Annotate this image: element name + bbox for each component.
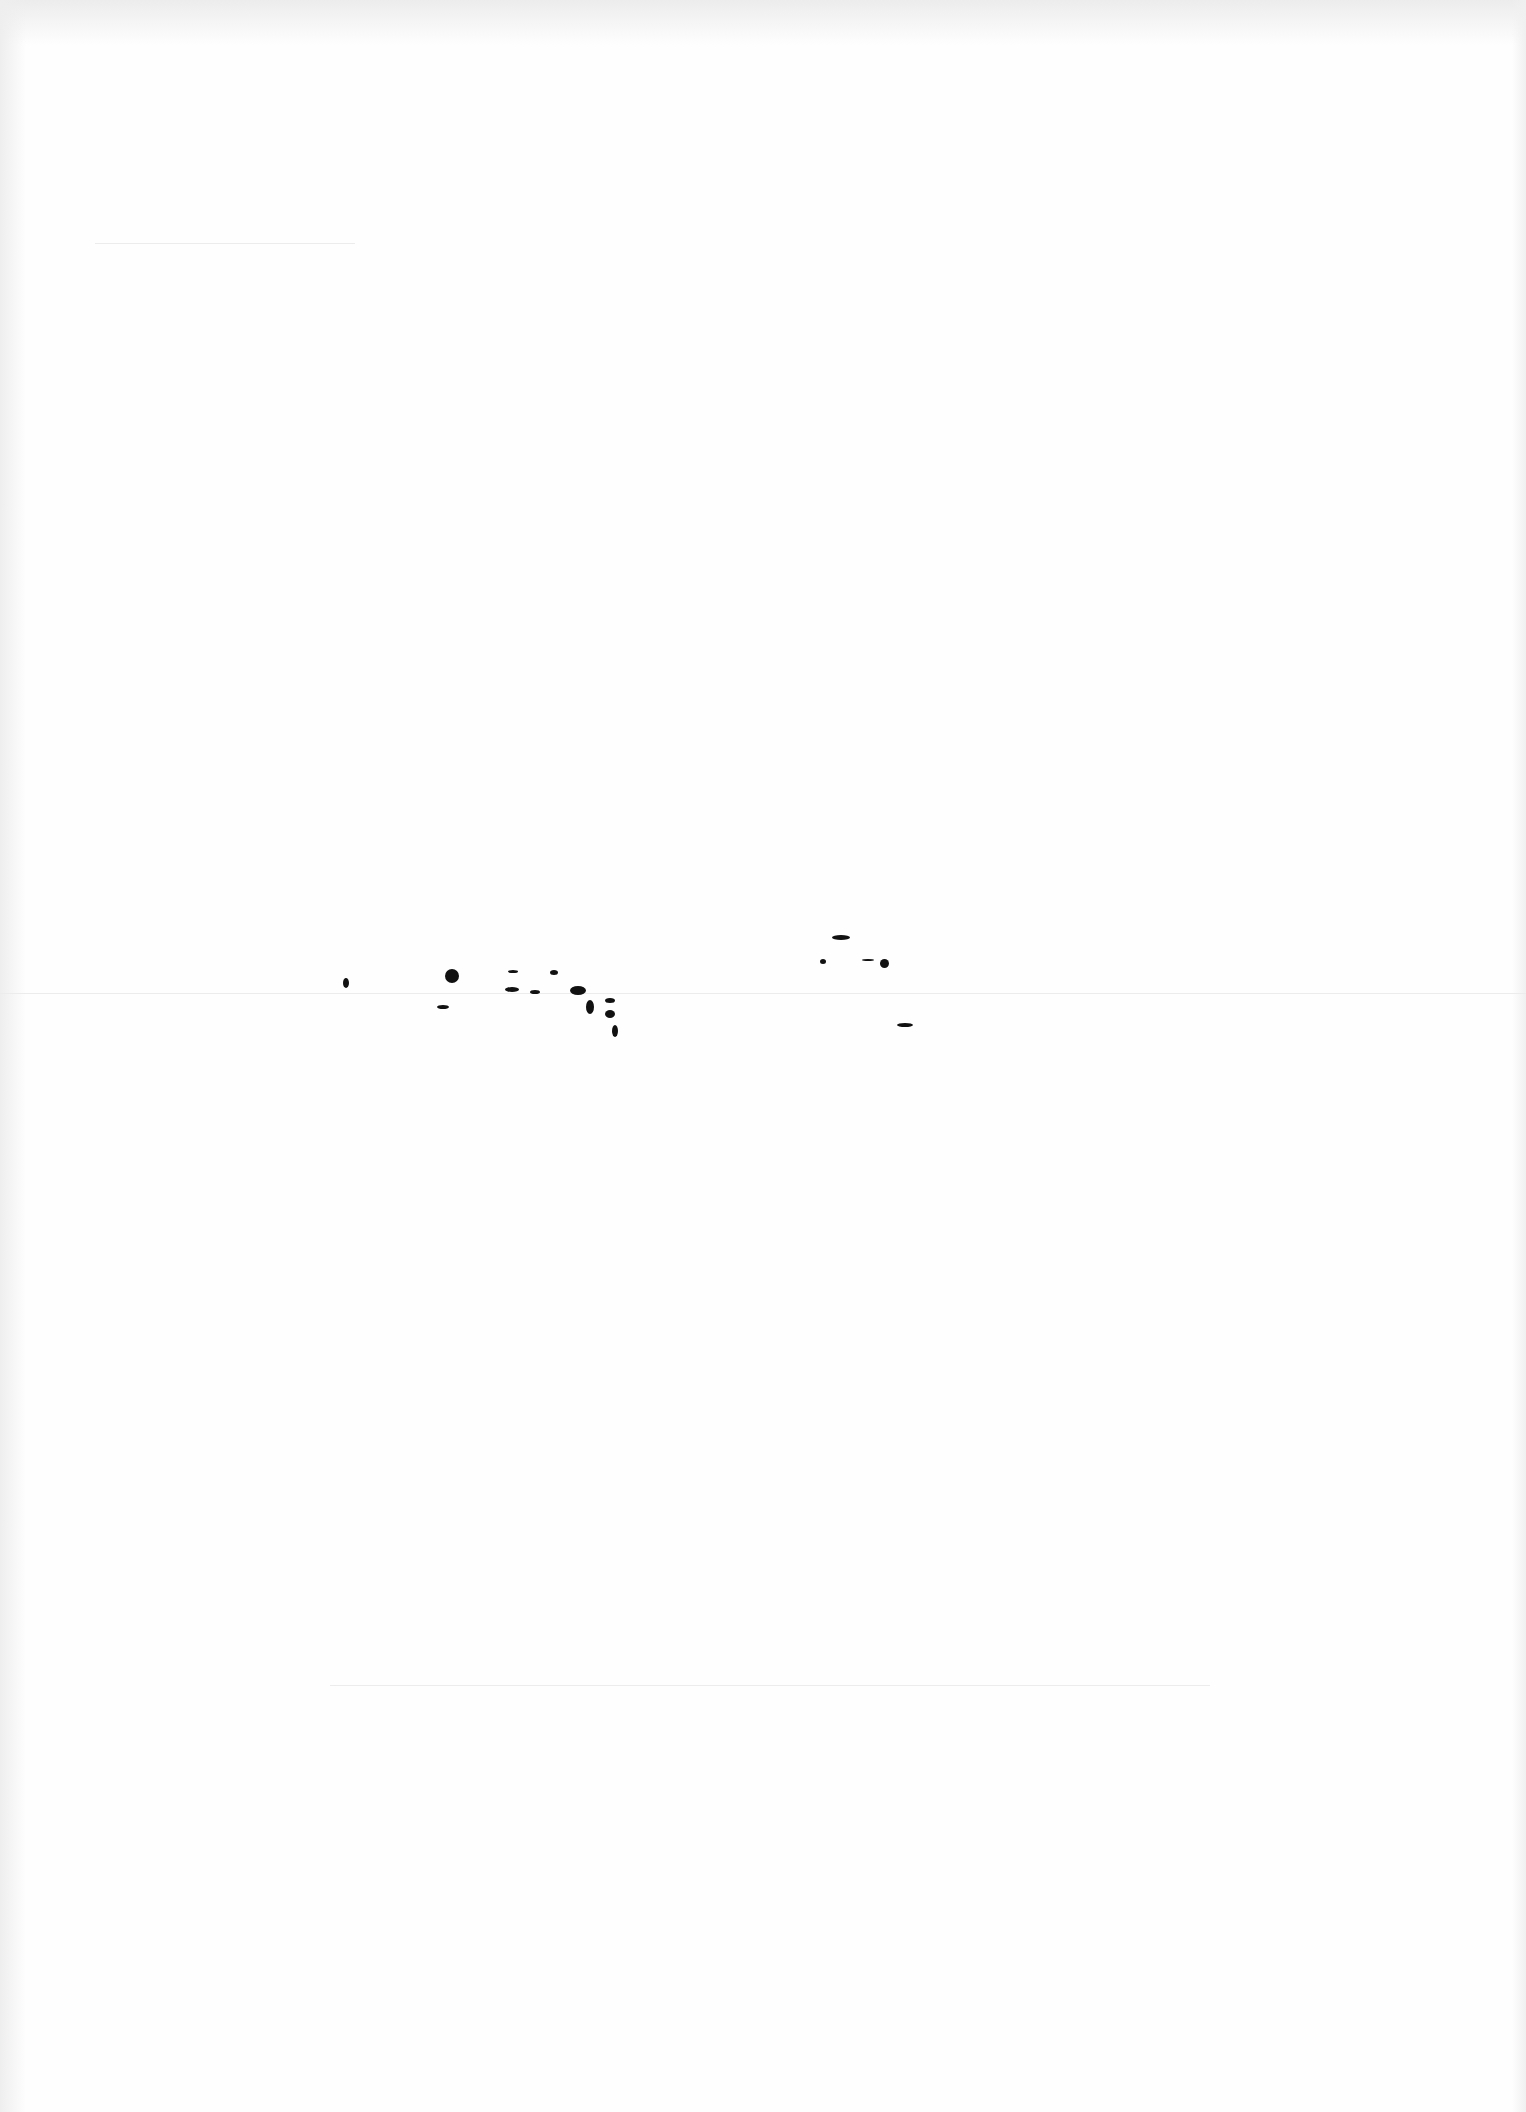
ink-speck <box>612 1025 618 1037</box>
ink-speck <box>570 986 586 995</box>
ink-speck <box>820 959 826 964</box>
crease-line <box>0 993 1526 994</box>
ink-speck <box>832 935 850 940</box>
ink-speck <box>508 970 518 973</box>
ink-speck <box>437 1005 449 1009</box>
blank-page <box>0 0 1526 2112</box>
ink-speck <box>897 1023 913 1027</box>
ink-speck <box>880 959 889 968</box>
ink-speck <box>605 998 615 1003</box>
ink-speck <box>862 959 874 961</box>
ink-speck <box>445 969 459 983</box>
ink-speck <box>343 978 349 988</box>
ink-speck <box>550 970 558 975</box>
ink-speck <box>605 1010 615 1018</box>
scan-edge-shadow-right <box>1512 0 1526 2112</box>
ink-speck <box>586 1000 594 1014</box>
crease-line <box>95 243 355 244</box>
crease-line <box>330 1685 1210 1686</box>
scan-edge-shadow-top <box>0 0 1526 45</box>
ink-speck <box>505 987 519 992</box>
scan-edge-shadow-left <box>0 0 26 2112</box>
ink-speck <box>530 990 540 994</box>
